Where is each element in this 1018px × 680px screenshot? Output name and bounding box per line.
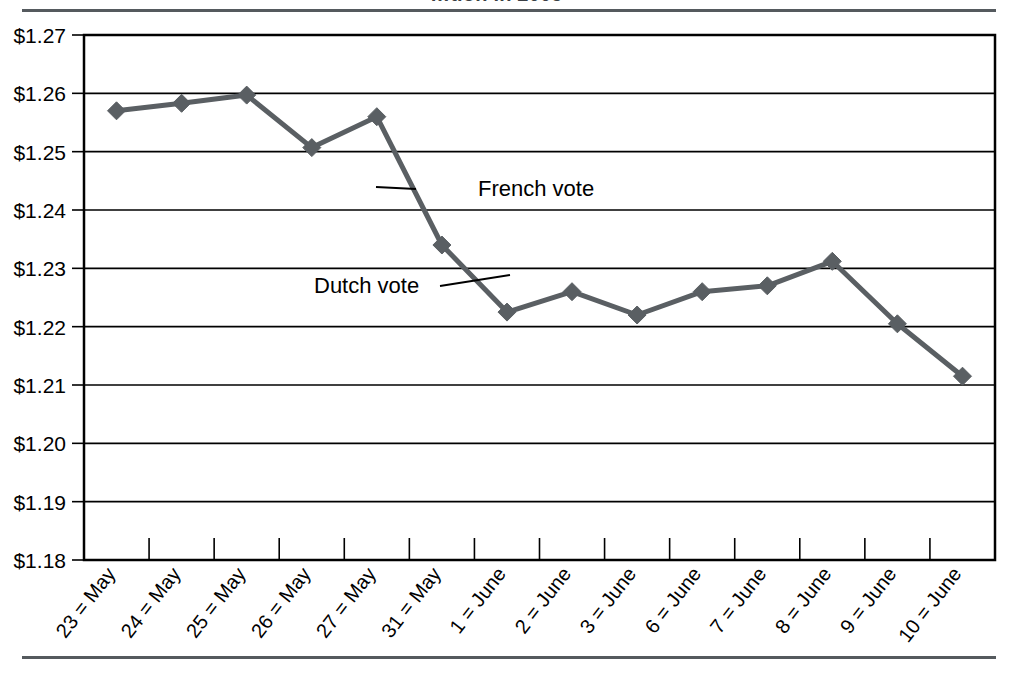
- y-axis-tick-label: $1.21: [13, 374, 66, 397]
- y-axis-tick-label: $1.27: [13, 24, 66, 47]
- x-axis-tick-label: 3 = June: [575, 563, 640, 637]
- y-axis-tick-label: $1.18: [13, 549, 66, 572]
- x-axis-tick-label: 7 = June: [705, 563, 770, 637]
- y-axis-tick-label: $1.20: [13, 432, 66, 455]
- x-axis-tick-label: 24 = May: [116, 563, 184, 642]
- annotation-dutch-vote-label: Dutch vote: [314, 273, 419, 298]
- x-axis-tick-label: 27 = May: [312, 563, 380, 642]
- y-axis-tick-label: $1.19: [13, 491, 66, 514]
- y-axis-tick-label: $1.26: [13, 82, 66, 105]
- y-axis-tick-label: $1.24: [13, 199, 66, 222]
- x-axis-tick-label: 9 = June: [836, 563, 901, 637]
- line-chart: $1.27$1.26$1.25$1.24$1.23$1.22$1.21$1.20…: [0, 0, 1018, 680]
- x-axis-tick-label: 1 = June: [445, 563, 510, 637]
- chart-page: …tion in 2005 $1.27$1.26$1.25$1.24$1.23$…: [0, 0, 1018, 680]
- y-axis-tick-label: $1.25: [13, 141, 66, 164]
- annotation-french-vote-label: French vote: [478, 176, 594, 201]
- y-axis-tick-label: $1.22: [13, 316, 66, 339]
- x-axis-tick-label: 26 = May: [247, 563, 315, 642]
- y-axis-tick-label: $1.23: [13, 257, 66, 280]
- y-axis-labels: $1.27$1.26$1.25$1.24$1.23$1.22$1.21$1.20…: [13, 24, 66, 572]
- x-axis-tick-label: 23 = May: [51, 563, 119, 642]
- x-axis-tick-label: 2 = June: [510, 563, 575, 637]
- plot-area-frame: [84, 35, 995, 560]
- x-axis-tick-label: 25 = May: [182, 563, 250, 642]
- x-axis-tick-label: 8 = June: [771, 563, 836, 637]
- x-axis-tick-label: 6 = June: [640, 563, 705, 637]
- x-axis-tick-label: 10 = June: [894, 563, 966, 646]
- bottom-divider-rule: [22, 656, 996, 659]
- x-axis-tick-label: 31 = May: [377, 563, 445, 642]
- x-axis-labels: 23 = May24 = May25 = May26 = May27 = May…: [51, 563, 965, 646]
